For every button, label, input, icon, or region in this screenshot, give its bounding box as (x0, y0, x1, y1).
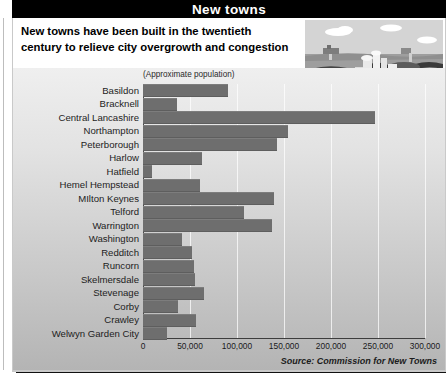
category-label-stevenage: Stevenage (13, 286, 139, 299)
bar-row (143, 206, 425, 219)
category-label-basildon: Basildon (13, 84, 139, 97)
bar-telford (143, 206, 244, 219)
category-label-redditch: Redditch (13, 246, 139, 259)
bar-row (143, 260, 425, 273)
bar-harlow (143, 152, 202, 165)
bar-row (143, 314, 425, 327)
bar-skelmersdale (143, 273, 195, 286)
bar-basildon (143, 84, 228, 97)
bar-row (143, 98, 425, 111)
category-label-peterborough: Peterborough (13, 138, 139, 151)
bar-row (143, 219, 425, 232)
bar-row (143, 111, 425, 124)
axis-note: (Approximate population) (143, 70, 234, 79)
x-tick-label-250000: 250,000 (363, 341, 393, 351)
bar-corby (143, 300, 178, 313)
category-label-harlow: Harlow (13, 151, 139, 164)
bar-row (143, 84, 425, 97)
bar-row (143, 273, 425, 286)
bar-row (143, 125, 425, 138)
bar-row (143, 165, 425, 178)
bar-crawley (143, 314, 196, 327)
category-label-telford: Telford (13, 205, 139, 218)
category-label-central-lancashire: Central Lancashire (13, 111, 139, 124)
bar-hatfield (143, 165, 152, 178)
subtitle: New towns have been built in the twentie… (21, 23, 321, 55)
page-title: New towns (192, 1, 266, 16)
bar-row (143, 152, 425, 165)
bar-bracknell (143, 98, 177, 111)
bar-stevenage (143, 287, 204, 300)
category-label-crawley: Crawley (13, 313, 139, 326)
category-label-runcorn: Runcorn (13, 259, 139, 272)
bar-row (143, 287, 425, 300)
category-label-bracknell: Bracknell (13, 97, 139, 110)
x-tick-label-100000: 100,000 (222, 341, 252, 351)
bar-row (143, 179, 425, 192)
category-label-welwyn-garden-city: Welwyn Garden City (13, 327, 139, 340)
bar-northampton (143, 125, 288, 138)
category-label-northampton: Northampton (13, 124, 139, 137)
category-label-hemel-hempstead: Hemel Hempstead (13, 178, 139, 191)
x-tick-label-150000: 150,000 (269, 341, 299, 351)
subtitle-line-1: New towns have been built in the twentie… (21, 23, 321, 39)
bar-milton-keynes (143, 192, 274, 205)
category-label-corby: Corby (13, 300, 139, 313)
title-bar: New towns (12, 0, 446, 18)
bar-row (143, 327, 425, 340)
x-tick-label-0: 0 (141, 341, 146, 351)
bar-welwyn-garden-city (143, 327, 167, 340)
bar-row (143, 138, 425, 151)
bar-row (143, 300, 425, 313)
subtitle-line-2: century to relieve city overgrowth and c… (21, 39, 321, 55)
chart-panel: (Approximate population) BasildonBrackne… (13, 68, 445, 370)
bar-warrington (143, 219, 272, 232)
x-tick-label-200000: 200,000 (316, 341, 346, 351)
bar-washington (143, 233, 182, 246)
left-margin-rule (3, 18, 4, 370)
bar-hemel-hempstead (143, 179, 200, 192)
gridline-300000 (425, 84, 426, 338)
bar-runcorn (143, 260, 194, 273)
x-tick-label-300000: 300,000 (410, 341, 440, 351)
category-label-hatfield: Hatfield (13, 165, 139, 178)
bar-row (143, 246, 425, 259)
category-label-milton-keynes: MIlton Keynes (13, 192, 139, 205)
bar-peterborough (143, 138, 277, 151)
bar-redditch (143, 246, 192, 259)
category-label-washington: Washington (13, 232, 139, 245)
bar-central-lancashire (143, 111, 375, 124)
category-label-skelmersdale: Skelmersdale (13, 273, 139, 286)
infographic-page: New towns New towns have been built in t… (0, 0, 446, 380)
x-tick-label-50000: 50,000 (177, 341, 203, 351)
bar-row (143, 192, 425, 205)
bar-row (143, 233, 425, 246)
category-label-warrington: Warrington (13, 219, 139, 232)
bar-chart-plot: (Approximate population) BasildonBrackne… (143, 80, 425, 338)
source-note: Source: Commission for New Towns (281, 356, 437, 366)
